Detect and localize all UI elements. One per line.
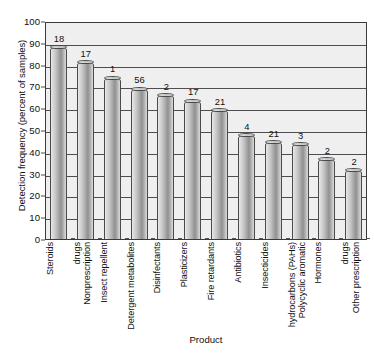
bar[interactable] — [184, 101, 201, 239]
y-axis-tick-90: 90 — [16, 39, 40, 49]
plot-area: 181715621721421322 — [45, 22, 367, 240]
y-axis-tick-30: 30 — [16, 170, 40, 180]
y-axis-tick-70: 70 — [16, 83, 40, 93]
y-axis-tick-80: 80 — [16, 61, 40, 71]
bar-value-label: 3 — [284, 131, 318, 140]
bar-top-cap — [265, 140, 282, 144]
bar[interactable] — [131, 89, 148, 239]
bar[interactable] — [292, 144, 309, 239]
bar-value-label: 21 — [203, 97, 237, 106]
category-label-line: Insect repellent — [99, 242, 110, 303]
category-label-line: drugs — [340, 242, 351, 264]
bar-series: 181715621721421322 — [46, 23, 366, 239]
y-axis-tick-10: 10 — [16, 213, 40, 223]
category-label-line: hydrocarbons (PAHs) — [287, 242, 298, 327]
bar[interactable] — [238, 135, 255, 239]
category-label-line: Detergent metabolites — [126, 242, 137, 330]
bar-value-label: 18 — [42, 34, 76, 43]
bar-value-label: 2 — [337, 157, 371, 166]
bar-top-cap — [184, 99, 201, 103]
bar[interactable] — [157, 95, 174, 239]
y-axis-tick-labels: 1009080706050403020100 — [16, 22, 40, 240]
bar-top-cap — [104, 76, 121, 80]
category-label-line: Disinfectants — [152, 242, 163, 293]
category-label-line: Hormones — [313, 242, 324, 284]
category-label-line: Plasticizers — [179, 242, 190, 287]
x-tick-mark — [366, 238, 370, 239]
bar[interactable] — [345, 170, 362, 239]
category-label-line: Fire retardants — [206, 242, 217, 300]
y-axis-tick-60: 60 — [16, 104, 40, 114]
bar[interactable] — [265, 142, 282, 239]
y-axis-tick-100: 100 — [16, 17, 40, 27]
category-label-line: Steroids — [45, 242, 56, 275]
y-axis-tick-40: 40 — [16, 148, 40, 158]
category-label-line: Antibiotics — [233, 242, 244, 283]
y-axis-tick-0: 0 — [16, 235, 40, 245]
x-axis-title: Product — [45, 334, 367, 345]
bar[interactable] — [318, 159, 335, 239]
bar[interactable] — [104, 78, 121, 239]
category-label-line: drugs — [72, 242, 83, 264]
bar-top-cap — [131, 87, 148, 91]
bar-value-label: 17 — [176, 87, 210, 96]
bar[interactable] — [211, 110, 228, 239]
y-axis-tick-20: 20 — [16, 192, 40, 202]
category-label-line: Other prescription — [351, 242, 362, 313]
category-label-line: Nonprescription — [82, 242, 93, 305]
category-label-line: Polycyclic aromatic — [297, 242, 308, 318]
y-axis-tick-50: 50 — [16, 126, 40, 136]
bar[interactable] — [50, 47, 67, 239]
bar[interactable] — [77, 62, 94, 239]
bar-chart-figure: Detection frequency (percent of samples)… — [0, 0, 374, 362]
bar-value-label: 17 — [69, 49, 103, 58]
category-label-line: Insecticides — [260, 242, 271, 289]
bar-value-label: 2 — [310, 146, 344, 155]
bar-value-label: 1 — [96, 64, 130, 73]
